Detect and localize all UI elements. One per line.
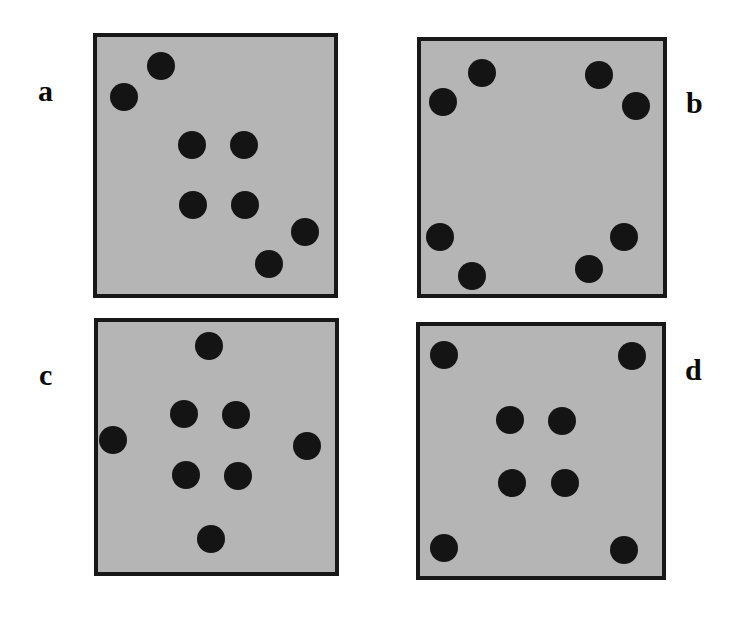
dot-marker <box>170 400 198 428</box>
dot-marker <box>430 534 458 562</box>
panel-label-d: d <box>685 355 702 385</box>
dot-marker <box>230 131 258 159</box>
panel-d <box>416 322 666 580</box>
dot-marker <box>291 218 319 246</box>
dot-marker <box>255 250 283 278</box>
dot-marker <box>551 469 579 497</box>
panel-c <box>94 318 339 576</box>
dot-marker <box>197 525 225 553</box>
panel-label-c: c <box>39 360 52 390</box>
panel-b <box>417 37 667 298</box>
dot-marker <box>618 342 646 370</box>
dot-marker <box>575 255 603 283</box>
dot-marker <box>99 426 127 454</box>
figure-container: a b c d <box>0 0 732 628</box>
dot-marker <box>195 332 223 360</box>
dot-marker <box>178 131 206 159</box>
dot-marker <box>610 223 638 251</box>
dot-marker <box>458 262 486 290</box>
panel-label-a: a <box>38 76 53 106</box>
dot-marker <box>430 341 458 369</box>
dot-marker <box>179 191 207 219</box>
dot-marker <box>622 92 650 120</box>
panel-d-dots <box>420 326 662 576</box>
dot-marker <box>147 52 175 80</box>
dot-marker <box>548 407 576 435</box>
dot-marker <box>610 536 638 564</box>
dot-marker <box>498 469 526 497</box>
dot-marker <box>222 401 250 429</box>
dot-marker <box>224 462 252 490</box>
dot-marker <box>293 432 321 460</box>
panel-c-dots <box>98 322 335 572</box>
panel-a <box>93 33 338 298</box>
dot-marker <box>496 406 524 434</box>
dot-marker <box>426 223 454 251</box>
panel-b-dots <box>421 41 663 294</box>
dot-marker <box>231 191 259 219</box>
dot-marker <box>110 83 138 111</box>
dot-marker <box>172 461 200 489</box>
panel-label-b: b <box>686 88 703 118</box>
panel-a-dots <box>97 37 334 294</box>
dot-marker <box>468 59 496 87</box>
dot-marker <box>585 61 613 89</box>
dot-marker <box>429 88 457 116</box>
